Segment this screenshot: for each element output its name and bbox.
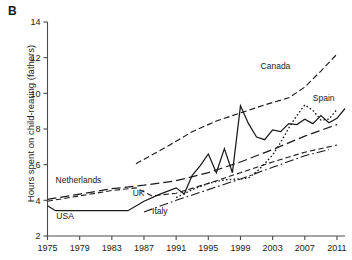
x-tick-label: 1999 [230, 243, 250, 253]
x-axis-ticks: 1975197919831987199119951999200320072011 [37, 236, 346, 253]
x-tick-label: 1983 [102, 243, 122, 253]
line-chart: 2468101214 19751979198319871991199519992… [0, 0, 352, 260]
y-tick-label: 14 [30, 17, 40, 27]
series-label-canada: Canada [261, 61, 291, 71]
y-axis-ticks: 2468101214 [30, 17, 47, 241]
series-line-spain [176, 105, 337, 198]
x-tick-label: 2003 [263, 243, 283, 253]
y-tick-label: 4 [35, 196, 40, 206]
series-line-usa [48, 106, 346, 211]
x-tick-label: 1991 [166, 243, 186, 253]
series-label-uk: UK [133, 188, 145, 198]
x-tick-label: 1979 [70, 243, 90, 253]
y-tick-label: 10 [30, 89, 40, 99]
series-label-netherlands: Netherlands [56, 175, 102, 185]
x-tick-label: 1975 [37, 243, 57, 253]
axes [48, 22, 346, 236]
series-label-italy: Italy [152, 206, 168, 216]
series-label-spain: Spain [313, 93, 335, 103]
x-tick-label: 1987 [134, 243, 154, 253]
y-tick-label: 2 [35, 231, 40, 241]
figure-panel-b: B Hours spent on child-rearing (fathers)… [0, 0, 352, 260]
y-tick-label: 6 [35, 160, 40, 170]
series-label-usa: USA [56, 211, 74, 221]
x-tick-label: 2011 [327, 243, 346, 253]
series-line-canada [136, 54, 337, 164]
x-tick-label: 2007 [295, 243, 315, 253]
x-tick-label: 1995 [198, 243, 218, 253]
y-tick-label: 12 [30, 53, 40, 63]
series-lines [48, 54, 346, 212]
y-tick-label: 8 [35, 124, 40, 134]
